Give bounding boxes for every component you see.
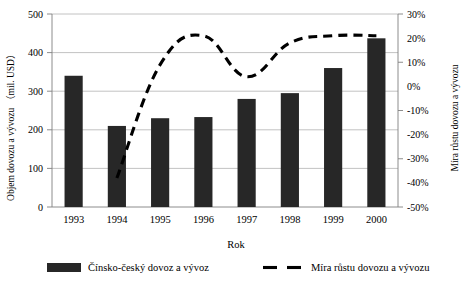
x-axis-title: Rok	[227, 239, 245, 250]
y-axis-title: Objem dovozu a vývozu （mil. USD）	[5, 49, 16, 201]
bar-series	[65, 38, 386, 207]
y2-axis-ticks: -50%-40%-30%-20%-10%0%10%20%30%	[398, 9, 429, 213]
x-axis-tick-label: 1994	[106, 214, 128, 225]
y-axis-tick-label: 100	[28, 163, 43, 174]
x-axis-tick-label: 1993	[63, 214, 84, 225]
legend-label-trend: Míra růstu dovozu a vývozu	[311, 262, 430, 273]
y2-axis-tick-label: -50%	[407, 202, 429, 213]
y-axis-tick-label: 200	[28, 124, 43, 135]
bar	[281, 93, 299, 207]
x-axis-tick-label: 1999	[323, 214, 344, 225]
bar	[238, 99, 256, 207]
y-axis-tick-label: 400	[28, 47, 43, 58]
bar	[194, 117, 212, 207]
combo-chart: 0100200300400500 -50%-40%-30%-20%-10%0%1…	[0, 0, 470, 285]
y-axis-ticks: 0100200300400500	[28, 9, 52, 213]
x-axis-tick-label: 1997	[236, 214, 257, 225]
chart-container: 0100200300400500 -50%-40%-30%-20%-10%0%1…	[0, 0, 470, 285]
chart-legend: Čínsko-český dovoz a vývoz Míra růstu do…	[47, 262, 430, 273]
y-axis-tick-label: 500	[28, 9, 43, 20]
x-axis-ticks: 19931994199519961997199819992000	[63, 214, 387, 225]
plot-axes	[52, 14, 398, 207]
y-axis-tick-label: 300	[28, 86, 43, 97]
x-axis-tick-label: 1995	[150, 214, 171, 225]
y2-axis-tick-label: -10%	[407, 105, 429, 116]
y2-axis-tick-label: 10%	[407, 57, 425, 68]
x-axis-tick-label: 1996	[193, 214, 214, 225]
y2-axis-tick-label: -20%	[407, 129, 429, 140]
x-axis-tick-label: 2000	[366, 214, 387, 225]
bar	[367, 38, 385, 207]
x-axis-tick-label: 1998	[279, 214, 300, 225]
y2-axis-tick-label: 30%	[407, 9, 425, 20]
legend-label-bars: Čínsko-český dovoz a vývoz	[88, 262, 209, 273]
bar	[108, 126, 126, 207]
y-axis-tick-label: 0	[38, 202, 43, 213]
gridlines-group	[52, 14, 398, 168]
bar	[324, 68, 342, 207]
y2-axis-tick-label: -40%	[407, 177, 429, 188]
y2-axis-tick-label: -30%	[407, 153, 429, 164]
y2-axis-tick-label: 20%	[407, 33, 425, 44]
y2-axis-title: Míra růstu dovozu a vývozu	[450, 64, 460, 171]
y2-axis-tick-label: 0%	[407, 81, 420, 92]
legend-marker-bars	[47, 263, 81, 272]
bar	[151, 118, 169, 207]
bar	[65, 76, 83, 207]
